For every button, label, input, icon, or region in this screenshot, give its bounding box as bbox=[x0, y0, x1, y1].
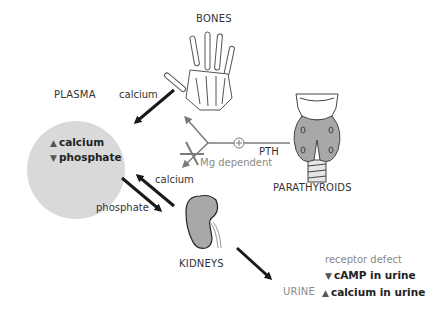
arrow-down-icon: ▼ bbox=[325, 271, 332, 281]
kidney-icon bbox=[186, 196, 221, 249]
urine-label: URINE bbox=[283, 286, 315, 297]
arrow-down-icon: ▼ bbox=[50, 153, 57, 163]
camp-finding: ▼cAMP in urine bbox=[325, 269, 416, 281]
bones-label: BONES bbox=[196, 13, 232, 24]
bones-to-plasma-label: calcium bbox=[119, 89, 158, 100]
arrow-up-icon: ▲ bbox=[322, 288, 329, 298]
parathyroids-label: PARATHYROIDS bbox=[273, 182, 352, 193]
calcium-urine-finding: ▲calcium in urine bbox=[322, 286, 425, 298]
hand-skeleton-icon bbox=[164, 32, 235, 110]
plasma-label: PLASMA bbox=[54, 89, 96, 100]
receptor-defect-label: receptor defect bbox=[325, 254, 402, 265]
plasma-phosphate: ▼phosphate bbox=[50, 151, 122, 163]
arrow-up-icon: ▲ bbox=[50, 138, 57, 148]
mg-dependent-label: Mg dependent bbox=[200, 157, 272, 168]
pth-label: PTH bbox=[259, 146, 279, 157]
plasma-to-kidney-label: phosphate bbox=[96, 202, 149, 213]
kidneys-label: KIDNEYS bbox=[179, 258, 224, 269]
kidney-to-plasma-label: calcium bbox=[155, 174, 194, 185]
plasma-calcium: ▲calcium bbox=[50, 136, 104, 148]
thyroid-gland-icon bbox=[294, 94, 340, 182]
